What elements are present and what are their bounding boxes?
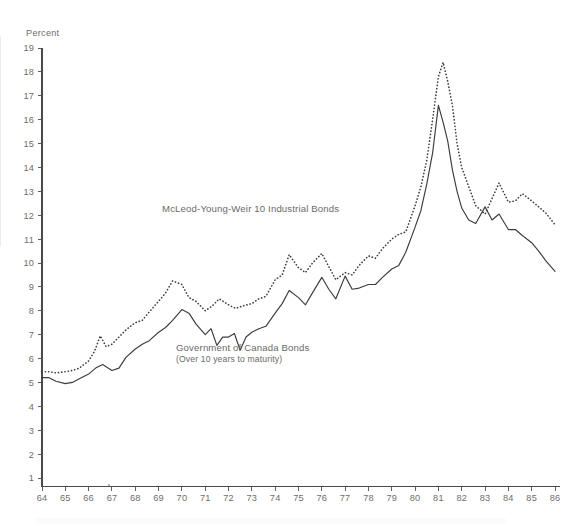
x-tick-label: 75: [293, 493, 304, 503]
x-tick-label: 76: [317, 493, 328, 503]
y-tick-label: 8: [29, 306, 34, 316]
y-tick-label: 16: [23, 115, 34, 125]
y-tick-label: 6: [29, 354, 34, 364]
x-tick-label: 73: [247, 493, 258, 503]
x-tick-label: 69: [153, 493, 164, 503]
x-tick-label: 65: [60, 493, 71, 503]
x-tick-label: 80: [410, 493, 421, 503]
x-tick-label: 82: [456, 493, 467, 503]
series-industrial-bonds: [42, 62, 555, 373]
y-tick-label: 10: [23, 258, 34, 268]
x-tick-label: 84: [503, 493, 514, 503]
y-tick-label: 15: [23, 139, 34, 149]
y-tick-label: 5: [29, 378, 34, 388]
y-tick-label: 4: [29, 402, 34, 412]
y-tick-label: 13: [23, 187, 34, 197]
y-axis-ticks: 19181716151413121110987654321: [23, 43, 42, 483]
y-tick-label: 18: [23, 67, 34, 77]
y-tick-label: 11: [24, 235, 34, 245]
x-tick-label: 78: [363, 493, 374, 503]
x-tick-label: 70: [177, 493, 188, 503]
stray-mark: [108, 484, 110, 486]
x-tick-label: 81: [433, 493, 444, 503]
industrial-bonds-annotation: McLeod-Young-Weir 10 Industrial Bonds: [162, 203, 339, 215]
bottom-cropped-caption: [36, 518, 506, 524]
y-tick-label: 17: [23, 91, 34, 101]
x-tick-label: 86: [550, 493, 561, 503]
y-tick-label: 9: [29, 282, 34, 292]
x-tick-label: 74: [270, 493, 281, 503]
x-tick-label: 79: [386, 493, 397, 503]
y-tick-label: 19: [23, 43, 34, 53]
canada-bonds-annotation-text: Government of Canada Bonds: [176, 342, 310, 353]
y-tick-label: 3: [29, 426, 34, 436]
x-tick-label: 67: [107, 493, 118, 503]
x-tick-label: 64: [37, 493, 48, 503]
x-tick-label: 72: [223, 493, 234, 503]
y-tick-label: 7: [29, 330, 34, 340]
y-tick-label: 14: [23, 163, 34, 173]
y-tick-label: 2: [29, 450, 34, 460]
interest-rate-chart: Percent 19181716151413121110987654321 64…: [0, 0, 584, 526]
canada-bonds-annotation-subtext: (Over 10 years to maturity): [176, 354, 310, 366]
x-tick-label: 83: [480, 493, 491, 503]
y-tick-label: 12: [23, 211, 34, 221]
x-tick-label: 66: [83, 493, 94, 503]
y-tick-label: 1: [29, 473, 34, 483]
x-tick-label: 85: [526, 493, 537, 503]
x-tick-label: 71: [200, 493, 211, 503]
x-axis-ticks: 6465666768697071727374757677787980818283…: [37, 487, 561, 504]
x-tick-label: 68: [130, 493, 141, 503]
industrial-bonds-annotation-text: McLeod-Young-Weir 10 Industrial Bonds: [162, 203, 339, 214]
x-tick-label: 77: [340, 493, 351, 503]
canada-bonds-annotation: Government of Canada Bonds (Over 10 year…: [176, 342, 310, 365]
plot-area: 19181716151413121110987654321 6465666768…: [0, 0, 584, 526]
